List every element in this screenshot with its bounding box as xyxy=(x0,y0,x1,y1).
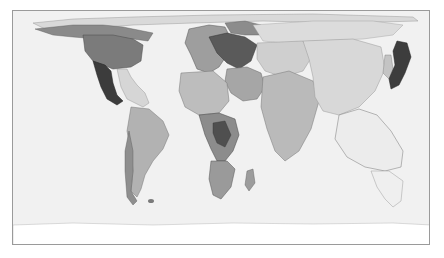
region-madagascar xyxy=(245,169,255,191)
region-southern-africa xyxy=(209,161,235,199)
region-middle-east xyxy=(225,67,265,101)
region-southeast-asia xyxy=(335,109,403,171)
region-russia xyxy=(253,21,403,43)
region-falklands xyxy=(148,199,154,203)
region-united-states xyxy=(83,35,143,69)
map-caption: cartogram xyxy=(0,0,1,1)
region-north-africa xyxy=(179,71,229,115)
region-south-america xyxy=(127,107,169,197)
world-cartogram xyxy=(13,11,430,245)
region-antarctica xyxy=(13,223,430,245)
region-india xyxy=(261,71,319,161)
region-oceania xyxy=(371,171,403,207)
world-cartogram-frame xyxy=(12,10,430,245)
